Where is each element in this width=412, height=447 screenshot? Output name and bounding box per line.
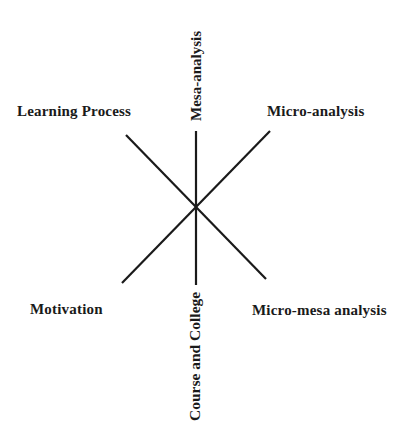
label-motivation: Motivation: [30, 300, 103, 318]
six-axis-diagram: Learning Process Micro-analysis Motivati…: [0, 0, 412, 447]
label-micro-mesa-analysis: Micro-mesa analysis: [252, 301, 387, 319]
label-mesa-analysis: Mesa-analysis: [188, 31, 204, 121]
label-course-and-college: Course and College: [187, 292, 203, 421]
label-learning-process: Learning Process: [17, 102, 131, 120]
label-micro-analysis: Micro-analysis: [267, 102, 365, 120]
axis-lines: [0, 0, 412, 447]
